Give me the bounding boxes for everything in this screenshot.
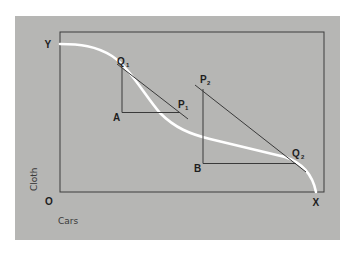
- svg-text:A: A: [113, 112, 120, 123]
- tangent-line-q1-p1: [117, 64, 188, 119]
- label-p2: P 2: [200, 74, 211, 86]
- svg-text:P: P: [178, 99, 185, 110]
- svg-text:P: P: [200, 74, 207, 85]
- origin-label: O: [45, 196, 53, 207]
- label-p1: P 1: [178, 99, 189, 111]
- production-possibility-diagram: Y X O Cars Cloth Q 1 P 1 A P 2 Q 2 B: [0, 0, 352, 253]
- svg-text:Q: Q: [117, 56, 125, 67]
- tangent-line-p2-q2: [195, 85, 306, 172]
- label-q1: Q 1: [117, 56, 130, 68]
- x-intercept-label: X: [313, 197, 320, 208]
- label-b: B: [194, 163, 201, 174]
- plot-frame: [60, 32, 324, 192]
- x-axis-title: Cars: [58, 216, 78, 226]
- svg-text:1: 1: [126, 62, 130, 68]
- production-possibility-curve: [60, 44, 316, 192]
- svg-text:1: 1: [185, 105, 189, 111]
- svg-text:2: 2: [301, 154, 305, 160]
- y-axis-title: Cloth: [29, 167, 39, 191]
- svg-text:Q: Q: [292, 148, 300, 159]
- svg-text:2: 2: [207, 80, 211, 86]
- label-q2: Q 2: [292, 148, 305, 160]
- svg-text:B: B: [194, 163, 201, 174]
- label-a: A: [113, 112, 120, 123]
- y-intercept-label: Y: [45, 39, 52, 50]
